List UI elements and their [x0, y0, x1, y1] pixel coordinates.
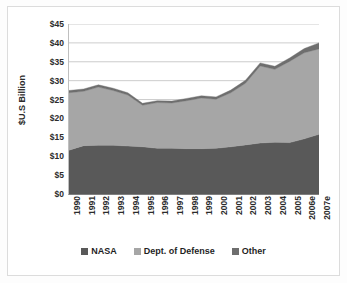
x-tick-label: 1992: [101, 196, 111, 215]
y-axis-tick-labels: $45$40$35$30$25$20$15$10$5$0: [30, 24, 66, 194]
x-tick-label: 2001: [234, 196, 244, 215]
y-tick-label: $5: [55, 170, 64, 180]
x-tick-label: 2004: [278, 196, 288, 215]
x-tick-label: 1995: [146, 196, 156, 215]
y-tick-label: $0: [55, 189, 64, 199]
chart-legend: NASADept. of DefenseOther: [0, 246, 347, 256]
x-tick-label: 1990: [72, 196, 82, 215]
x-tick-label: 1991: [87, 196, 97, 215]
x-tick-label: 2007e: [322, 196, 332, 220]
x-tick-label: 2000: [219, 196, 229, 215]
stacked-area-svg: [69, 24, 319, 194]
y-tick-label: $35: [50, 57, 64, 67]
legend-label: Other: [242, 246, 266, 256]
x-axis-tick-labels: 1990199119921993199419951996199719981999…: [68, 196, 318, 240]
legend-item[interactable]: Other: [232, 246, 266, 256]
x-tick-label: 1997: [175, 196, 185, 215]
y-tick-label: $25: [50, 95, 64, 105]
x-tick-label: 2003: [263, 196, 273, 215]
legend-swatch-icon: [81, 248, 88, 255]
legend-item[interactable]: Dept. of Defense: [134, 246, 215, 256]
y-tick-label: $20: [50, 113, 64, 123]
legend-label: NASA: [91, 246, 117, 256]
chart-figure: $U.S Billion $45$40$35$30$25$20$15$10$5$…: [0, 0, 347, 283]
x-tick-label: 1998: [190, 196, 200, 215]
x-tick-label: 2002: [248, 196, 258, 215]
legend-item[interactable]: NASA: [81, 246, 117, 256]
legend-swatch-icon: [134, 248, 141, 255]
x-tick-label: 2005: [293, 196, 303, 215]
y-tick-label: $15: [50, 132, 64, 142]
y-tick-label: $10: [50, 151, 64, 161]
y-tick-label: $40: [50, 38, 64, 48]
x-tick-label: 1999: [204, 196, 214, 215]
plot-area: [68, 24, 319, 195]
y-tick-label: $30: [50, 76, 64, 86]
legend-label: Dept. of Defense: [144, 246, 215, 256]
x-tick-label: 1996: [160, 196, 170, 215]
x-tick-label: 1994: [131, 196, 141, 215]
y-tick-label: $45: [50, 19, 64, 29]
x-tick-label: 1993: [116, 196, 126, 215]
legend-swatch-icon: [232, 248, 239, 255]
x-tick-label: 2006e: [307, 196, 317, 220]
